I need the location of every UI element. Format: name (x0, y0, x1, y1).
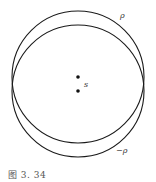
label-s: s (84, 80, 88, 89)
label-neg-rho: −ρ (116, 146, 128, 155)
upper-point (76, 75, 80, 79)
diagram-canvas: s ρ −ρ (0, 0, 156, 182)
figure-caption: 图 3. 34 (8, 168, 46, 181)
lower-point (76, 89, 80, 93)
label-rho: ρ (119, 11, 125, 20)
